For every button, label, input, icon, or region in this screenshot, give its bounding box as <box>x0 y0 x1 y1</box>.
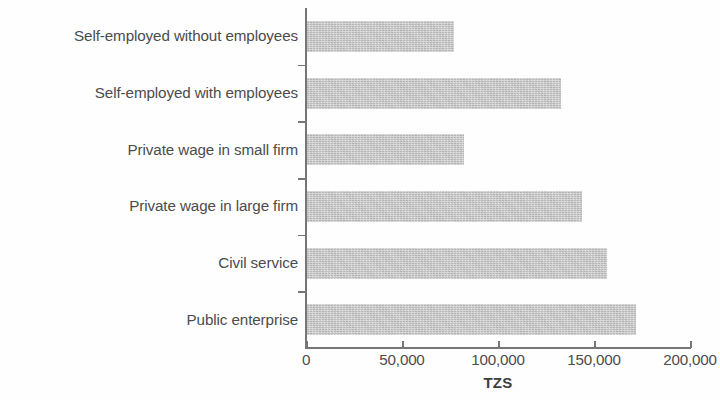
x-axis-tick-label-4: 200,000 <box>663 352 717 367</box>
bar-2 <box>306 134 464 165</box>
y-axis-label-2: Private wage in small firm <box>0 142 298 157</box>
bar-chart: Self-employed without employees Self-emp… <box>0 0 720 400</box>
x-axis-tick-4 <box>690 341 692 348</box>
bar-3 <box>306 191 582 222</box>
x-axis-tick-0 <box>306 341 308 348</box>
y-axis-tick-2 <box>298 121 306 123</box>
x-axis-title-text: TZS <box>483 374 512 391</box>
y-axis-tick-3 <box>298 178 306 180</box>
y-axis-label-0: Self-employed without employees <box>0 28 298 43</box>
x-axis-tick-2 <box>498 341 500 348</box>
bar-4 <box>306 248 607 279</box>
x-axis-tick-1 <box>402 341 404 348</box>
x-axis-tick-3 <box>594 341 596 348</box>
plot-area <box>306 8 690 348</box>
y-axis-label-4: Civil service <box>0 255 298 270</box>
bar-1 <box>306 78 561 109</box>
y-axis-label-1: Self-employed with employees <box>0 85 298 100</box>
x-axis-tick-label-0: 0 <box>302 352 310 367</box>
x-axis-title: TZS <box>0 374 720 391</box>
y-axis-tick-4 <box>298 235 306 237</box>
y-axis-label-3: Private wage in large firm <box>0 198 298 213</box>
y-axis-label-5: Public enterprise <box>0 312 298 327</box>
y-axis-tick-5 <box>298 291 306 293</box>
x-axis-tick-label-2: 100,000 <box>471 352 525 367</box>
x-axis-tick-label-3: 150,000 <box>567 352 621 367</box>
y-axis-tick-1 <box>298 65 306 67</box>
y-axis-category-labels: Self-employed without employees Self-emp… <box>0 0 298 348</box>
bar-0 <box>306 21 454 52</box>
x-axis-tick-label-1: 50,000 <box>379 352 424 367</box>
bar-5 <box>306 304 636 335</box>
